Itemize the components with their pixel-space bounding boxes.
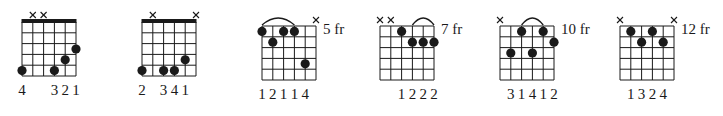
finger-dot [279,27,288,36]
finger-number: 4 [659,86,667,102]
finger-dot [257,27,266,36]
muted-string-x-icon [377,17,383,23]
chord-diagram: 2341 [137,12,199,98]
muted-string-x-icon [497,17,503,23]
finger-number: 1 [291,86,299,102]
barre-arc [262,18,294,25]
finger-dot [429,38,438,47]
finger-number: 1 [627,86,635,102]
chord-diagram-strip: 432123415 fr121147 fr122210 fr3141212 fr… [0,0,723,116]
finger-number: 2 [649,86,657,102]
barre-arc [522,18,544,25]
finger-number: 3 [160,82,168,98]
finger-number: 2 [138,82,146,98]
finger-number: 1 [280,86,288,102]
finger-number: 2 [419,86,427,102]
finger-number: 1 [539,86,547,102]
finger-dot [528,48,537,57]
finger-dot [648,27,657,36]
finger-dot [17,66,26,75]
finger-dot [159,66,168,75]
nut [22,19,77,23]
muted-string-x-icon [388,17,394,23]
finger-dot [290,27,299,36]
muted-string-x-icon [313,17,319,23]
finger-number: 2 [409,86,417,102]
finger-number: 2 [430,86,438,102]
fret-position-label: 10 fr [561,21,590,37]
finger-number: 3 [638,86,646,102]
fret-position-label: 7 fr [441,21,462,37]
muted-string-x-icon [41,12,47,18]
fret-position-label: 5 fr [323,21,344,37]
chord-diagram: 10 fr31412 [497,17,590,102]
finger-number: 1 [398,86,406,102]
finger-number: 4 [301,86,309,102]
finger-dot [50,66,59,75]
finger-dot [61,55,70,64]
chord-diagrams-svg: 432123415 fr121147 fr122210 fr3141212 fr… [0,0,723,116]
finger-number: 1 [72,82,80,98]
chord-diagram: 12 fr1324 [617,17,710,102]
finger-dot [71,44,80,53]
finger-number: 2 [550,86,558,102]
finger-number: 4 [18,82,26,98]
chord-diagram: 4321 [17,12,80,98]
finger-number: 2 [61,82,69,98]
muted-string-x-icon [193,12,199,18]
finger-number: 3 [507,86,515,102]
finger-dot [517,27,526,36]
finger-dot [506,48,515,57]
finger-number: 1 [181,82,189,98]
muted-string-x-icon [671,17,677,23]
finger-dot [659,38,668,47]
finger-number: 1 [258,86,266,102]
muted-string-x-icon [150,12,156,18]
finger-dot [137,66,146,75]
nut [142,19,197,23]
chord-diagram: 5 fr12114 [257,17,344,102]
finger-number: 2 [269,86,277,102]
finger-dot [419,38,428,47]
finger-number: 4 [529,86,537,102]
fret-position-label: 12 fr [681,21,710,37]
finger-dot [301,59,310,68]
finger-number: 1 [518,86,526,102]
finger-number: 3 [51,82,59,98]
finger-dot [549,38,558,47]
finger-dot [408,38,417,47]
muted-string-x-icon [617,17,623,23]
finger-dot [170,66,179,75]
finger-dot [637,38,646,47]
finger-dot [181,55,190,64]
finger-dot [397,27,406,36]
finger-dot [626,27,635,36]
finger-number: 4 [171,82,179,98]
chord-diagram: 7 fr1222 [377,17,462,102]
barre-arc [412,18,434,25]
finger-dot [268,38,277,47]
muted-string-x-icon [30,12,36,18]
finger-dot [539,27,548,36]
